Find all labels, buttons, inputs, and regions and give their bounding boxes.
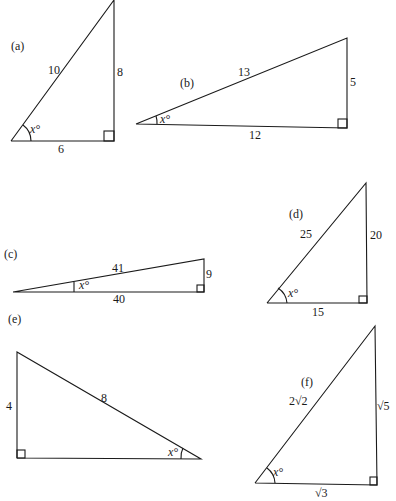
angle-b: x° bbox=[159, 112, 170, 126]
hyp-b: 13 bbox=[238, 65, 250, 79]
adj-b: 12 bbox=[249, 128, 261, 142]
triangle-d: (d) 25 20 15 x° bbox=[267, 183, 382, 319]
adj-a: 6 bbox=[58, 142, 64, 156]
hyp-c: 41 bbox=[112, 261, 124, 275]
angle-d: x° bbox=[287, 286, 298, 300]
hyp-f: 2√2 bbox=[289, 394, 308, 408]
adj-f: √3 bbox=[315, 486, 328, 500]
label-e: (e) bbox=[8, 312, 21, 326]
hyp-e: 8 bbox=[101, 391, 107, 405]
opp-d: 20 bbox=[370, 228, 382, 242]
triangle-e: (e) 8 4 x° bbox=[6, 312, 201, 459]
triangle-f: (f) 2√2 √5 √3 x° bbox=[255, 326, 390, 500]
triangle-b: (b) 13 5 12 x° bbox=[136, 38, 356, 142]
opp-c: 9 bbox=[206, 267, 212, 281]
hyp-a: 10 bbox=[48, 63, 60, 77]
opp-a: 8 bbox=[117, 65, 123, 79]
opp-e: 4 bbox=[6, 399, 12, 413]
triangles-figure: (a) 10 8 6 x° (b) 13 5 12 x° (c) 41 9 40… bbox=[0, 0, 396, 501]
label-f: (f) bbox=[301, 375, 313, 389]
angle-a: x° bbox=[29, 122, 40, 136]
angle-c: x° bbox=[78, 278, 89, 292]
opp-f: √5 bbox=[377, 399, 390, 413]
triangle-a: (a) 10 8 6 x° bbox=[11, 0, 123, 156]
angle-e: x° bbox=[167, 445, 178, 459]
hyp-d: 25 bbox=[300, 227, 312, 241]
label-a: (a) bbox=[11, 39, 24, 53]
opp-b: 5 bbox=[350, 75, 356, 89]
adj-c: 40 bbox=[113, 292, 125, 306]
adj-d: 15 bbox=[312, 305, 324, 319]
label-c: (c) bbox=[4, 247, 17, 261]
label-d: (d) bbox=[289, 207, 303, 221]
label-b: (b) bbox=[180, 76, 194, 90]
triangle-c: (c) 41 9 40 x° bbox=[4, 247, 212, 306]
angle-f: x° bbox=[272, 465, 283, 479]
